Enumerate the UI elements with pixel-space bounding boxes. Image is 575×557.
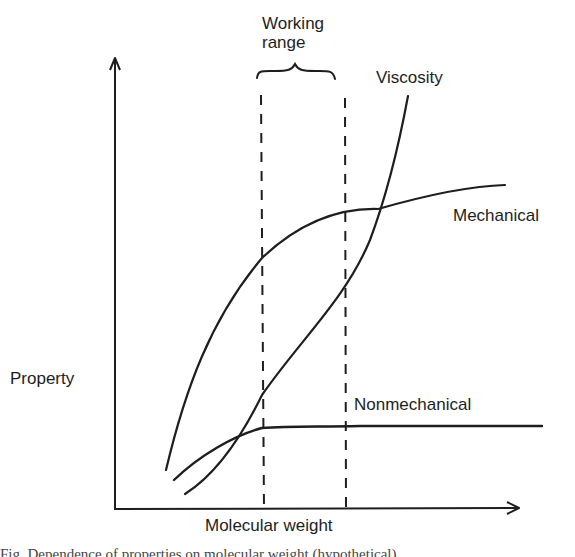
working-range-upper-bound bbox=[345, 98, 346, 508]
x-axis-label: Molecular weight bbox=[205, 516, 333, 536]
working-range-label-line1: Working bbox=[262, 14, 352, 33]
working-range-label-line2: range bbox=[262, 33, 352, 52]
viscosity-curve bbox=[185, 96, 408, 494]
working-range-label: Working range bbox=[262, 14, 352, 52]
nonmechanical-label: Nonmechanical bbox=[354, 395, 471, 415]
working-range-lower-bound bbox=[261, 95, 264, 508]
y-axis-label: Property bbox=[10, 369, 74, 389]
viscosity-label: Viscosity bbox=[376, 68, 443, 88]
x-axis bbox=[115, 502, 519, 514]
nonmechanical-curve bbox=[174, 426, 542, 480]
y-axis bbox=[110, 58, 120, 510]
working-range-brace-icon bbox=[257, 64, 335, 79]
mechanical-label: Mechanical bbox=[453, 206, 539, 226]
figure-caption-cropped: Fig. Dependence of properties on molecul… bbox=[0, 545, 575, 557]
